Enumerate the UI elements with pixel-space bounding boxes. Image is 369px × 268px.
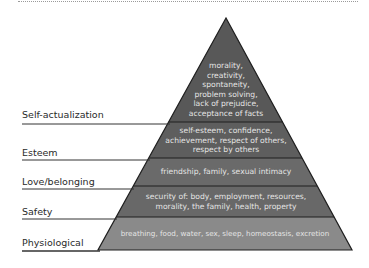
text-safety: security of: body, employment, resources… [123, 192, 329, 211]
label-love-belonging: Love/belonging [22, 176, 95, 187]
label-self-actualization: Self-actualization [22, 109, 104, 120]
label-physiological: Physiological [22, 237, 84, 248]
text-physiological: breathing, food, water, sex, sleep, home… [100, 229, 350, 239]
label-safety: Safety [22, 206, 52, 217]
text-love-belonging: friendship, family, sexual intimacy [140, 167, 312, 177]
label-esteem: Esteem [22, 147, 58, 158]
text-self-actualization: morality, creativity, spontaneity, probl… [176, 61, 276, 119]
text-esteem: self-esteem, confidence, achievement, re… [155, 126, 297, 155]
